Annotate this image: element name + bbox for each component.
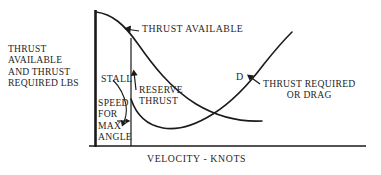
speed-for-max-angle-label: SPEED FOR MAX ANGLE — [98, 97, 132, 142]
drag-point-label: D — [236, 71, 243, 83]
thrust-available-arrow — [124, 26, 139, 33]
y-axis-label: THRUST AVAILABLE AND THRUST REQUIRED LBS — [8, 43, 79, 88]
x-axis-label: VELOCITY - KNOTS — [147, 153, 246, 165]
reserve-thrust-label: RESERVE THRUST — [139, 84, 183, 107]
stall-label: STALL — [101, 73, 133, 85]
thrust-available-label: THRUST AVAILABLE — [142, 23, 243, 35]
thrust-velocity-diagram: THRUST AVAILABLE AND THRUST REQUIRED LBS… — [0, 0, 381, 175]
thrust-required-or-drag-label: THRUST REQUIRED OR DRAG — [263, 78, 356, 101]
